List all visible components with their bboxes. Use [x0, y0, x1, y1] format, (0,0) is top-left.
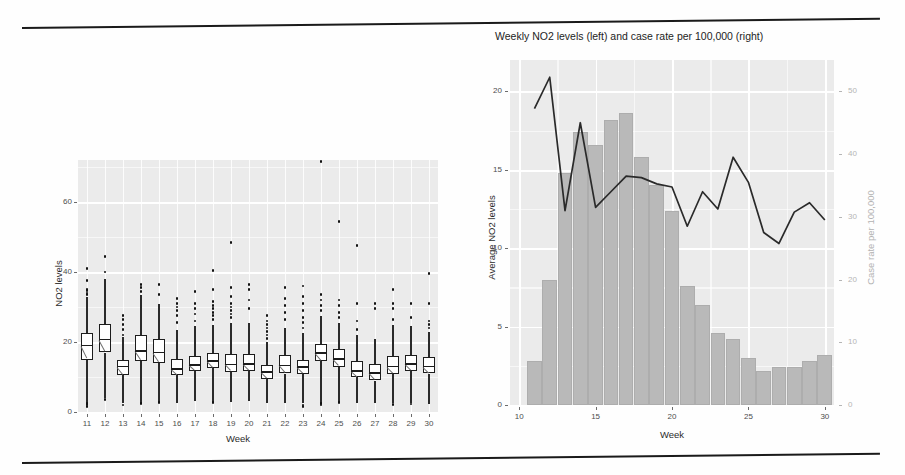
x-tick-mark — [393, 414, 394, 417]
x-tick-mark — [672, 407, 673, 410]
bar-line-y-axis-title-right: Case rate per 100,000 — [865, 183, 876, 293]
outlier-point — [428, 302, 431, 305]
y-tick-label-right: 40 — [848, 149, 857, 158]
x-tick-mark — [141, 414, 142, 417]
x-tick-mark — [339, 414, 340, 417]
x-tick-mark — [195, 414, 196, 417]
y-tick-mark — [74, 202, 77, 203]
y-tick-mark-left — [505, 91, 508, 92]
scanned-page: 0204060 11121314151617181920212223242526… — [0, 0, 905, 475]
y-tick-label: 0 — [58, 407, 72, 416]
outlier-point — [428, 320, 431, 323]
x-tick-label: 13 — [114, 419, 132, 428]
x-tick-mark — [105, 414, 106, 417]
x-tick-mark — [596, 407, 597, 410]
x-tick-mark — [159, 414, 160, 417]
x-tick-mark — [519, 407, 520, 410]
outlier-point — [428, 323, 431, 326]
x-tick-label: 24 — [312, 419, 330, 428]
boxplot-x-axis-title: Week — [226, 433, 250, 444]
y-tick-label: 60 — [58, 197, 72, 206]
x-tick-label: 15 — [586, 412, 606, 421]
x-tick-label: 26 — [348, 419, 366, 428]
y-tick-label-right: 50 — [848, 86, 857, 95]
bar-line-x-axis-title: Week — [660, 429, 684, 440]
boxplot-chart: 0204060 11121314151617181920212223242526… — [0, 0, 460, 475]
y-tick-mark — [74, 342, 77, 343]
y-tick-mark-left — [505, 170, 508, 171]
boxplot-y-axis-title: NO2 levels — [53, 244, 64, 324]
y-tick-label: 20 — [58, 337, 72, 346]
gridline-y — [78, 412, 438, 414]
x-tick-mark — [177, 414, 178, 417]
x-tick-label: 25 — [738, 412, 758, 421]
chart-title: Weekly NO2 levels (left) and case rate p… — [495, 30, 763, 42]
y-tick-mark-right — [839, 405, 842, 406]
x-tick-mark — [748, 407, 749, 410]
x-tick-label: 28 — [384, 419, 402, 428]
line-series — [510, 60, 834, 405]
no2-line — [534, 77, 824, 243]
x-tick-label: 30 — [420, 419, 438, 428]
x-tick-mark — [357, 414, 358, 417]
y-tick-label-right: 20 — [848, 275, 857, 284]
y-tick-label-right: 0 — [848, 400, 852, 409]
x-tick-label: 20 — [240, 419, 258, 428]
y-tick-label-left: 5 — [486, 322, 502, 331]
median-line — [423, 366, 434, 368]
x-tick-mark — [411, 414, 412, 417]
x-tick-mark — [825, 407, 826, 410]
x-tick-mark — [375, 414, 376, 417]
x-tick-label: 22 — [276, 419, 294, 428]
y-tick-label-left: 20 — [486, 86, 502, 95]
y-tick-label-right: 30 — [848, 212, 857, 221]
x-tick-mark — [123, 414, 124, 417]
x-tick-mark — [87, 414, 88, 417]
y-tick-mark-left — [505, 248, 508, 249]
bar-line-chart: Weekly NO2 levels (left) and case rate p… — [460, 0, 905, 475]
x-tick-mark — [267, 414, 268, 417]
x-tick-label: 20 — [662, 412, 682, 421]
x-tick-mark — [249, 414, 250, 417]
y-tick-mark-right — [839, 217, 842, 218]
x-tick-label: 29 — [402, 419, 420, 428]
x-tick-label: 27 — [366, 419, 384, 428]
y-tick-mark-left — [505, 327, 508, 328]
y-tick-mark-right — [839, 154, 842, 155]
x-tick-label: 21 — [258, 419, 276, 428]
y-tick-label-left: 0 — [486, 400, 502, 409]
whisker-lower — [428, 374, 429, 405]
x-tick-mark — [285, 414, 286, 417]
bar-line-plot-panel — [510, 60, 834, 405]
bar-line-y-axis-title-left: Average NO2 levels — [486, 193, 497, 283]
x-tick-label: 30 — [815, 412, 835, 421]
x-tick-label: 16 — [168, 419, 186, 428]
x-tick-mark — [231, 414, 232, 417]
y-tick-mark — [74, 412, 77, 413]
x-tick-label: 18 — [204, 419, 222, 428]
x-tick-label: 15 — [150, 419, 168, 428]
x-tick-label: 23 — [294, 419, 312, 428]
x-tick-mark — [429, 414, 430, 417]
x-tick-label: 14 — [132, 419, 150, 428]
y-tick-label-right: 10 — [848, 337, 857, 346]
x-tick-label: 19 — [222, 419, 240, 428]
y-tick-label-left: 15 — [486, 165, 502, 174]
x-tick-label: 12 — [96, 419, 114, 428]
x-tick-label: 11 — [78, 419, 96, 428]
x-tick-mark — [303, 414, 304, 417]
y-tick-mark-right — [839, 280, 842, 281]
x-tick-label: 17 — [186, 419, 204, 428]
x-tick-mark — [321, 414, 322, 417]
outlier-point — [428, 327, 431, 330]
boxplot-plot-panel — [78, 160, 438, 412]
x-tick-label: 25 — [330, 419, 348, 428]
y-tick-mark-right — [839, 91, 842, 92]
boxplot-box — [78, 160, 438, 412]
y-tick-mark-right — [839, 342, 842, 343]
x-tick-label: 10 — [509, 412, 529, 421]
y-tick-mark — [74, 272, 77, 273]
y-tick-mark-left — [505, 405, 508, 406]
whisker-upper — [428, 332, 429, 357]
outlier-point — [428, 272, 431, 275]
